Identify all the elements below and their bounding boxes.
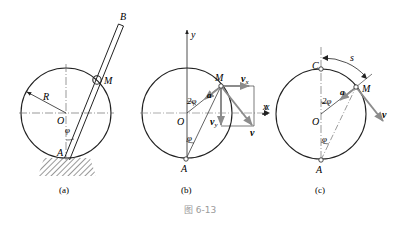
velocity-y-label: vy (210, 116, 218, 129)
point-c (319, 67, 323, 71)
panel-c: C M O A s x 2φ φ a v (c) (262, 47, 387, 195)
velocity-x-label: vx (241, 73, 249, 86)
point-o-label: O (177, 116, 184, 127)
rod-ab (65, 24, 124, 160)
angle-2phi-label: 2φ (322, 96, 332, 106)
point-m-label: M (214, 72, 224, 83)
x-axis-label: x (262, 101, 268, 112)
acceleration-label: a (340, 87, 345, 97)
panel-a: B M O A R φ (a) (19, 11, 126, 195)
point-b-label: B (120, 11, 126, 22)
point-a-label: A (56, 147, 64, 158)
point-m (219, 84, 223, 88)
point-o-label: O (312, 116, 319, 127)
angle-2phi-label: 2φ (187, 96, 197, 106)
point-c-label: C (312, 60, 319, 71)
y-axis-label: y (190, 29, 196, 40)
panel-b: y x M O A 2φ φ a vx vy v (b) (140, 29, 270, 195)
arc-arrow-left-icon (322, 55, 328, 61)
figure-canvas: B M O A R φ (a) y x M O A (0, 0, 401, 228)
arc-arrow-right-icon (361, 73, 367, 79)
radius-label: R (42, 91, 49, 102)
velocity-label: v (250, 127, 255, 138)
acceleration-label: a (207, 90, 212, 100)
velocity-label: v (382, 109, 387, 120)
point-m-label: M (361, 83, 371, 94)
panel-c-caption: (c) (315, 185, 325, 195)
point-o-label: O (57, 115, 64, 126)
arc-length-label: s (350, 52, 354, 63)
panel-b-caption: (b) (181, 185, 192, 195)
angle-phi-arc (66, 139, 74, 140)
panel-a-caption: (a) (59, 185, 69, 195)
point-a (184, 157, 188, 161)
point-m (354, 85, 358, 89)
velocity-vector (221, 86, 252, 125)
point-a-label: A (180, 163, 188, 174)
point-a-label: A (315, 164, 323, 175)
point-m-label: M (103, 75, 113, 86)
angle-phi-label: φ (322, 134, 327, 144)
angle-phi-label: φ (187, 133, 192, 143)
arc-length-s (323, 58, 366, 77)
point-a (319, 158, 323, 162)
ground-support (38, 158, 96, 176)
figure-caption: 图 6-13 (184, 205, 216, 215)
angle-phi-label: φ (65, 125, 70, 135)
